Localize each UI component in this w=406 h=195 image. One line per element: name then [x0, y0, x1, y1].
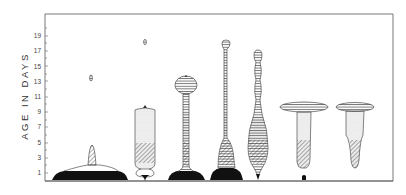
profile-2: [135, 39, 155, 181]
profile-7: [336, 103, 374, 169]
profile-6: [280, 102, 328, 180]
profile-1: [52, 75, 128, 180]
profile-5: [248, 50, 268, 180]
diagram-canvas: [0, 0, 406, 195]
profile-4: [210, 40, 243, 180]
profile-3: [168, 75, 205, 180]
y-axis-ticks: [45, 28, 48, 173]
